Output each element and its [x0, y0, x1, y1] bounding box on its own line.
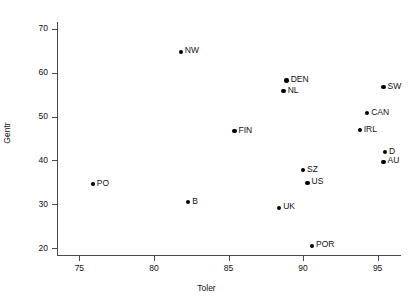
x-tick-mark	[79, 256, 80, 261]
data-point-label: POR	[316, 240, 334, 249]
y-tick-label: 60	[8, 68, 48, 77]
data-point-label: US	[312, 177, 324, 186]
data-point-label: SW	[388, 82, 402, 91]
y-axis-title: Gentr	[2, 108, 12, 158]
data-point-label: D	[389, 147, 395, 156]
data-point-label: NL	[288, 86, 299, 95]
x-tick-mark	[303, 256, 304, 261]
x-tick-mark	[229, 256, 230, 261]
data-point-label: FIN	[238, 126, 252, 135]
data-point-marker	[284, 78, 288, 82]
x-axis-title: Toler	[0, 283, 413, 293]
y-tick-label: 50	[8, 112, 48, 121]
data-point-label: SZ	[307, 165, 318, 174]
data-point-label: CAN	[371, 108, 389, 117]
x-tick-label: 75	[59, 264, 99, 273]
data-point-marker	[305, 181, 309, 185]
x-tick-mark	[154, 256, 155, 261]
data-point-label: UK	[283, 202, 295, 211]
data-point-marker	[232, 129, 236, 133]
data-point-label: NW	[185, 46, 199, 55]
scatter-plot-figure: 203040506070 7580859095 Toler Gentr NWDE…	[0, 0, 413, 304]
x-tick-label: 95	[358, 264, 398, 273]
y-tick-label: 30	[8, 200, 48, 209]
data-point-label: AU	[388, 156, 400, 165]
data-point-label: PO	[97, 179, 109, 188]
data-point-label: IRL	[364, 125, 377, 134]
y-tick-label: 70	[8, 24, 48, 33]
y-tick-label: 40	[8, 156, 48, 165]
data-point-marker	[179, 50, 183, 54]
x-tick-label: 90	[283, 264, 323, 273]
x-tick-label: 80	[134, 264, 174, 273]
data-point-label: B	[192, 197, 198, 206]
data-point-label: DEN	[291, 75, 309, 84]
y-tick-label: 20	[8, 244, 48, 253]
x-tick-label: 85	[209, 264, 249, 273]
plot-data-area	[57, 22, 400, 255]
data-point-marker	[281, 89, 285, 93]
data-point-marker	[381, 160, 385, 164]
x-tick-mark	[378, 256, 379, 261]
data-point-marker	[381, 85, 385, 89]
